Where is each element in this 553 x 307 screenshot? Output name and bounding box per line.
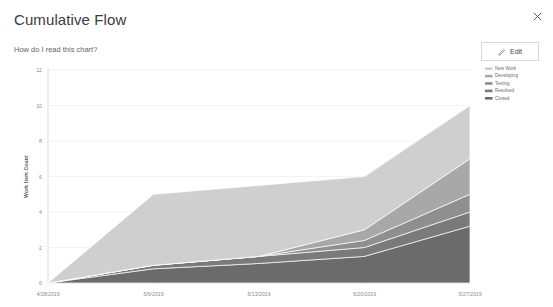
legend-label: Developing bbox=[495, 73, 518, 78]
cumulative-flow-panel: Cumulative Flow How do I read this chart… bbox=[0, 0, 553, 307]
legend-swatch bbox=[485, 67, 493, 70]
y-tick-label: 12 bbox=[36, 67, 42, 73]
legend-swatch bbox=[485, 90, 493, 93]
legend-swatch bbox=[485, 82, 493, 85]
legend-swatch bbox=[485, 75, 493, 78]
y-axis-title: Work Item Count bbox=[23, 155, 29, 198]
help-link[interactable]: How do I read this chart? bbox=[14, 45, 97, 54]
x-tick-label: 5/6/2019 bbox=[143, 291, 163, 297]
y-tick-label: 10 bbox=[36, 103, 42, 109]
x-tick-label: 5/13/2019 bbox=[247, 291, 270, 297]
x-tick-label: 4/28/2019 bbox=[36, 291, 59, 297]
page-title: Cumulative Flow bbox=[14, 11, 126, 28]
y-tick-label: 8 bbox=[39, 138, 42, 144]
legend-label: New Work bbox=[495, 66, 517, 71]
legend-label: Resolved bbox=[495, 88, 515, 93]
y-tick-label: 0 bbox=[39, 280, 42, 286]
cumulative-flow-chart: 0246810124/28/20195/6/20195/13/20195/20/… bbox=[0, 58, 553, 306]
y-tick-label: 2 bbox=[39, 245, 42, 251]
legend-swatch bbox=[485, 97, 493, 100]
edit-button-label: Edit bbox=[510, 48, 522, 55]
legend-label: Testing bbox=[495, 81, 510, 86]
pencil-icon bbox=[498, 48, 506, 56]
close-glyph bbox=[533, 12, 542, 21]
x-tick-label: 5/20/2019 bbox=[353, 291, 376, 297]
legend-label: Closed bbox=[495, 96, 510, 101]
y-tick-label: 6 bbox=[39, 174, 42, 180]
close-icon[interactable] bbox=[528, 7, 546, 25]
y-tick-label: 4 bbox=[39, 209, 42, 215]
x-tick-label: 5/27/2019 bbox=[458, 291, 481, 297]
chart-svg: 0246810124/28/20195/6/20195/13/20195/20/… bbox=[0, 58, 553, 306]
